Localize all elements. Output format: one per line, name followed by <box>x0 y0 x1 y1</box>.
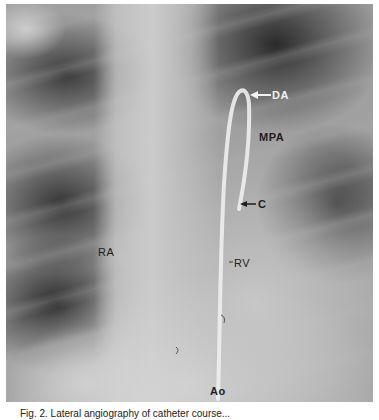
radiograph-figure: DA MPA C RA RV Ao <box>6 4 373 402</box>
label-ao: Ao <box>210 385 226 397</box>
figure-caption: Fig. 2. Lateral angiography of catheter … <box>20 408 230 420</box>
label-da: DA <box>272 89 289 101</box>
label-rv: RV <box>234 257 250 269</box>
catheter-path <box>6 4 373 402</box>
label-ra: RA <box>98 246 114 258</box>
label-mpa: MPA <box>259 131 284 143</box>
label-c: C <box>258 198 266 210</box>
